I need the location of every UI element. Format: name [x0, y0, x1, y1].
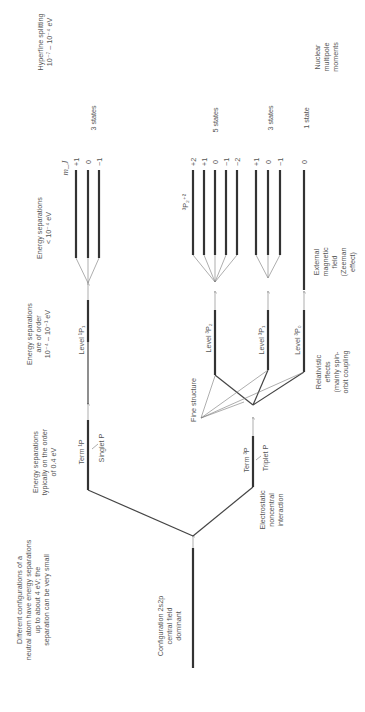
svg-text:Singlet P: Singlet P	[97, 433, 106, 462]
zeeman-note: Energy separations < 10⁻⁴ eV	[35, 197, 53, 259]
svg-text:effect): effect)	[348, 252, 357, 272]
mj-values-3p0: 0	[300, 160, 309, 164]
svg-text:3 states: 3 states	[89, 105, 98, 131]
mj-values-3p1: +1 0 −1	[252, 158, 285, 166]
svg-text:Hyperfine splitting: Hyperfine splitting	[36, 13, 45, 70]
triplet-name-label: Triplet P	[261, 445, 270, 472]
svg-text:of 0.4 eV: of 0.4 eV	[49, 447, 58, 476]
svg-text:Level ¹P₁: Level ¹P₁	[77, 325, 86, 354]
svg-text:+1: +1	[200, 158, 209, 166]
svg-text:1 state: 1 state	[302, 107, 311, 129]
svg-text:field: field	[330, 255, 339, 268]
configuration-label: Configuration 2s2p central field dominan…	[156, 596, 183, 656]
svg-text:noncentral: noncentral	[267, 493, 276, 527]
svg-text:³P₂⁺²: ³P₂⁺²	[181, 193, 190, 210]
svg-text:dominant: dominant	[174, 611, 183, 641]
svg-text:Level ³P₂: Level ³P₂	[204, 323, 213, 352]
count-3p1: 3 states	[266, 105, 275, 131]
svg-text:central field: central field	[165, 608, 174, 645]
svg-text:up to about 4 eV; the: up to about 4 eV; the	[33, 567, 42, 633]
substate-3p2-label: ³P₂⁺²	[181, 193, 190, 210]
mj-header: m_J	[60, 160, 70, 176]
svg-text:Relativistic: Relativistic	[314, 354, 323, 389]
mj-values-3p2: +2 +1 0 −1 −2	[189, 158, 242, 166]
level-3p1-label: Level ³P₁	[257, 325, 266, 354]
svg-text:separation can be very small: separation can be very small	[42, 554, 51, 646]
singlet-branch	[76, 170, 193, 536]
svg-text:Energy separations: Energy separations	[31, 431, 40, 493]
config-note: Different configurations of a neutral at…	[15, 539, 51, 660]
svg-text:Level ³P₁: Level ³P₁	[257, 325, 266, 354]
external-field-label: External magnetic field (Zeeman effect)	[312, 247, 357, 277]
term-triplet-label: Term ³P	[242, 447, 251, 472]
svg-text:0: 0	[264, 160, 273, 164]
nuclear-label: Nuclear multipole moments	[313, 42, 340, 72]
level-3p2-label: Level ³P₂	[204, 323, 213, 352]
svg-text:Level ³P₀: Level ³P₀	[293, 325, 302, 354]
count-3p0: 1 state	[302, 107, 311, 129]
term-note: Energy separations typically on the orde…	[31, 428, 58, 495]
svg-text:Fine structure: Fine structure	[189, 378, 198, 422]
svg-text:< 10⁻⁴ eV: < 10⁻⁴ eV	[44, 212, 53, 244]
svg-text:Term ³P: Term ³P	[242, 447, 251, 472]
svg-text:10⁻⁴ – 10⁻¹ eV: 10⁻⁴ – 10⁻¹ eV	[43, 310, 52, 358]
svg-text:+1: +1	[72, 158, 81, 166]
svg-text:0: 0	[300, 160, 309, 164]
svg-text:10⁻⁷ – 10⁻⁴ eV: 10⁻⁷ – 10⁻⁴ eV	[45, 18, 54, 67]
level-3p0-label: Level ³P₀	[293, 325, 302, 354]
svg-text:effects: effects	[323, 361, 332, 382]
electrostatic-label: Electrostatic noncentral interaction	[258, 490, 285, 530]
svg-text:−1: −1	[276, 158, 285, 166]
svg-text:5 states: 5 states	[211, 107, 220, 133]
svg-text:moments: moments	[331, 42, 340, 72]
mj-values-1p1: +1 0 −1	[72, 158, 104, 166]
level-1p1-label: Level ¹P₁	[77, 325, 86, 354]
fine-structure-label: Fine structure	[189, 378, 198, 422]
singlet-name-label: Singlet P	[97, 433, 106, 462]
svg-text:typically on the order: typically on the order	[40, 428, 49, 495]
count-1p1: 3 states	[89, 105, 98, 131]
svg-text:Configuration 2s2p: Configuration 2s2p	[156, 596, 165, 656]
relativistic-label: Relativistic effects (mainly spin- orbit…	[314, 351, 350, 394]
svg-text:Energy separations: Energy separations	[25, 303, 34, 365]
svg-text:Term ¹P: Term ¹P	[77, 439, 86, 464]
svg-text:0: 0	[84, 160, 93, 164]
svg-text:Different configurations of a: Different configurations of a	[15, 556, 24, 644]
svg-text:Nuclear: Nuclear	[313, 44, 322, 69]
svg-text:0: 0	[211, 160, 220, 164]
svg-text:interaction: interaction	[276, 493, 285, 526]
hyperfine-note: Hyperfine splitting 10⁻⁷ – 10⁻⁴ eV	[36, 13, 54, 70]
svg-text:are of order: are of order	[34, 315, 43, 353]
svg-text:−1: −1	[222, 158, 231, 166]
svg-text:m_J: m_J	[60, 160, 70, 176]
svg-text:magnetic: magnetic	[321, 247, 330, 277]
svg-text:External: External	[312, 248, 321, 275]
svg-text:orbit coupling: orbit coupling	[341, 351, 350, 394]
svg-text:+2: +2	[189, 158, 198, 166]
svg-text:3 states: 3 states	[266, 105, 275, 131]
svg-text:neutral atom have energy separ: neutral atom have energy separations	[24, 539, 33, 660]
fine-structure-pointers	[201, 370, 304, 418]
svg-text:+1: +1	[252, 158, 261, 166]
svg-text:−1: −1	[95, 158, 104, 166]
svg-text:Electrostatic: Electrostatic	[258, 490, 267, 530]
svg-text:multipole: multipole	[322, 43, 331, 72]
count-3p2: 5 states	[211, 107, 220, 133]
energy-level-diagram: Different configurations of a neutral at…	[0, 0, 365, 712]
term-singlet-label: Term ¹P	[77, 439, 86, 464]
svg-text:(Zeeman: (Zeeman	[339, 248, 348, 277]
svg-text:Energy separations: Energy separations	[35, 197, 44, 259]
level-note: Energy separations are of order 10⁻⁴ – 1…	[25, 303, 52, 365]
svg-text:−2: −2	[233, 158, 242, 166]
svg-text:(mainly spin-: (mainly spin-	[332, 351, 341, 392]
svg-text:Triplet P: Triplet P	[261, 445, 270, 472]
